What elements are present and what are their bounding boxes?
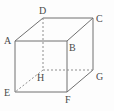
vertex-label-g: G	[96, 72, 103, 82]
vertex-label-a: A	[4, 36, 11, 46]
vertex-label-e: E	[4, 88, 10, 98]
solid-edges-group	[15, 18, 93, 92]
cube-diagram: ABCDEFGH	[0, 0, 114, 111]
vertex-label-f: F	[65, 95, 71, 105]
hidden-edges-group	[15, 18, 93, 92]
edge-fg	[67, 70, 93, 92]
vertex-label-d: D	[39, 6, 46, 16]
vertex-label-c: C	[96, 14, 103, 24]
vertex-label-b: B	[69, 43, 76, 53]
edge-bc	[67, 18, 93, 41]
vertex-label-h: H	[37, 73, 44, 83]
edge-ad	[15, 18, 43, 41]
